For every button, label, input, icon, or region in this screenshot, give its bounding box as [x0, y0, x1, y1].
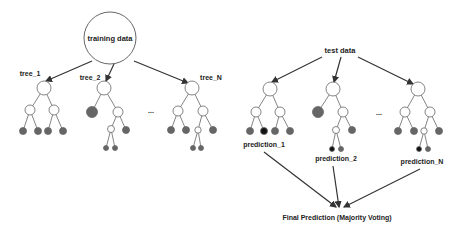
- pred-tree-1: [247, 82, 294, 135]
- arrow-to-tree-n: [134, 61, 188, 83]
- tree-n-label: tree_N: [200, 74, 222, 81]
- arrow-pred-2-to-final: [333, 166, 339, 207]
- pred-tree-n: [395, 82, 443, 152]
- arrow-pred-n-to-final: [344, 169, 420, 207]
- test-data-label: test data: [325, 46, 356, 55]
- training-data-label: training data: [87, 34, 132, 43]
- arrow-to-pred-tree-1: [272, 57, 322, 82]
- ellipsis-left: ...: [148, 107, 154, 114]
- tree-2-label: tree_2: [80, 74, 101, 81]
- prediction-1-label: prediction_1: [243, 141, 285, 148]
- final-prediction-label: Final Prediction (Majority Voting): [282, 214, 391, 221]
- prediction-n-label: prediction_N: [401, 158, 444, 165]
- tree-1: [20, 81, 67, 135]
- tree-1-label: tree_1: [20, 70, 41, 77]
- tree-n: [168, 81, 217, 151]
- test-section: [247, 57, 443, 207]
- arrow-to-pred-tree-n: [358, 57, 413, 84]
- tree-2: [87, 81, 130, 151]
- arrow-to-tree-2: [106, 64, 114, 81]
- arrow-to-pred-tree-2: [334, 57, 341, 82]
- pred-tree-2: [313, 82, 356, 152]
- ellipsis-right: ...: [376, 109, 382, 116]
- random-forest-diagram: [0, 0, 463, 231]
- prediction-2-label: prediction_2: [315, 155, 357, 162]
